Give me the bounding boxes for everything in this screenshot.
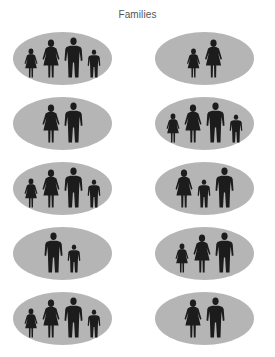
family-left-row-5 <box>13 292 112 345</box>
family-ellipse-graphic <box>155 227 254 280</box>
figure-title: Families <box>0 9 275 20</box>
family-left-row-3 <box>13 162 112 215</box>
family-ellipse-graphic <box>13 162 112 215</box>
family-ellipse <box>155 292 254 345</box>
family-ellipse-graphic <box>155 97 254 150</box>
family-right-row-1 <box>155 32 254 85</box>
family-right-row-3 <box>155 162 254 215</box>
family-ellipse-graphic <box>155 32 254 85</box>
family-ellipse-graphic <box>13 97 112 150</box>
family-ellipse-graphic <box>13 292 112 345</box>
family-ellipse-graphic <box>13 32 112 85</box>
family-left-row-2 <box>13 97 112 150</box>
family-ellipse <box>13 97 112 150</box>
family-left-row-4 <box>13 227 112 280</box>
family-ellipse-graphic <box>13 227 112 280</box>
family-ellipse-graphic <box>155 292 254 345</box>
family-left-row-1 <box>13 32 112 85</box>
family-right-row-2 <box>155 97 254 150</box>
family-right-row-5 <box>155 292 254 345</box>
family-right-row-4 <box>155 227 254 280</box>
family-ellipse <box>155 32 254 85</box>
family-ellipse <box>13 227 112 280</box>
family-ellipse-graphic <box>155 162 254 215</box>
